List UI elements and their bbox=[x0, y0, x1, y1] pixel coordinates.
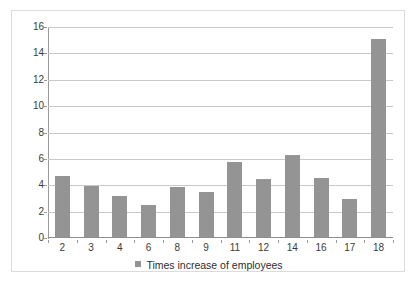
gridline bbox=[48, 185, 393, 186]
y-tick-label: 14 bbox=[18, 48, 44, 58]
x-tick-mark bbox=[106, 240, 107, 243]
x-tick-mark bbox=[77, 240, 78, 243]
y-tick-mark bbox=[44, 238, 47, 239]
gridline bbox=[48, 27, 393, 28]
x-tick-mark bbox=[48, 240, 49, 243]
chart-frame: 0246810121416 234689111214161718 Times i… bbox=[11, 10, 405, 272]
x-tick-label: 16 bbox=[306, 242, 336, 254]
x-tick-label: 3 bbox=[76, 242, 106, 254]
y-tick-mark bbox=[44, 27, 47, 28]
x-tick-label: 6 bbox=[134, 242, 164, 254]
x-tick-label: 8 bbox=[162, 242, 192, 254]
x-tick-mark bbox=[192, 240, 193, 243]
x-tick-mark bbox=[163, 240, 164, 243]
bar[interactable] bbox=[84, 186, 99, 237]
gridline bbox=[48, 106, 393, 107]
bar[interactable] bbox=[112, 196, 127, 237]
x-axis-tick-labels: 234689111214161718 bbox=[48, 240, 393, 256]
bar[interactable] bbox=[285, 155, 300, 237]
gridline bbox=[48, 133, 393, 134]
y-tick-label: 10 bbox=[18, 101, 44, 111]
x-tick-label: 17 bbox=[335, 242, 365, 254]
x-axis-line bbox=[48, 237, 393, 238]
y-tick-label: 12 bbox=[18, 75, 44, 85]
legend-swatch-icon bbox=[135, 261, 141, 267]
x-tick-label: 11 bbox=[220, 242, 250, 254]
bar[interactable] bbox=[342, 199, 357, 237]
x-tick-mark bbox=[134, 240, 135, 243]
y-tick-mark bbox=[44, 80, 47, 81]
y-axis-tick-labels: 0246810121416 bbox=[12, 27, 44, 238]
y-tick-label: 4 bbox=[18, 180, 44, 190]
x-tick-mark bbox=[336, 240, 337, 243]
bar[interactable] bbox=[371, 39, 386, 237]
x-tick-mark bbox=[221, 240, 222, 243]
bar[interactable] bbox=[227, 162, 242, 237]
y-tick-mark bbox=[44, 159, 47, 160]
gridline bbox=[48, 212, 393, 213]
plot-area bbox=[48, 27, 393, 238]
legend-label: Times increase of employees bbox=[146, 259, 282, 271]
y-tick-mark bbox=[44, 212, 47, 213]
x-tick-label: 4 bbox=[105, 242, 135, 254]
x-tick-label: 14 bbox=[277, 242, 307, 254]
bar[interactable] bbox=[314, 178, 329, 237]
x-tick-label: 2 bbox=[47, 242, 77, 254]
y-tick-mark bbox=[44, 133, 47, 134]
bar[interactable] bbox=[141, 205, 156, 237]
y-tick-label: 0 bbox=[18, 233, 44, 243]
y-tick-label: 8 bbox=[18, 128, 44, 138]
gridline bbox=[48, 53, 393, 54]
y-tick-label: 16 bbox=[18, 22, 44, 32]
bar[interactable] bbox=[199, 192, 214, 237]
x-tick-mark bbox=[393, 240, 394, 243]
bar[interactable] bbox=[256, 179, 271, 237]
x-tick-mark bbox=[307, 240, 308, 243]
y-tick-label: 2 bbox=[18, 207, 44, 217]
gridline bbox=[48, 80, 393, 81]
y-tick-label: 6 bbox=[18, 154, 44, 164]
y-tick-mark bbox=[44, 53, 47, 54]
bar[interactable] bbox=[55, 176, 70, 237]
x-tick-mark bbox=[278, 240, 279, 243]
chart-legend: Times increase of employees bbox=[12, 258, 406, 271]
x-tick-mark bbox=[364, 240, 365, 243]
gridline bbox=[48, 159, 393, 160]
x-tick-label: 18 bbox=[364, 242, 394, 254]
x-tick-label: 12 bbox=[249, 242, 279, 254]
y-tick-mark bbox=[44, 185, 47, 186]
x-tick-label: 9 bbox=[191, 242, 221, 254]
bar[interactable] bbox=[170, 187, 185, 237]
x-tick-mark bbox=[249, 240, 250, 243]
y-tick-mark bbox=[44, 106, 47, 107]
